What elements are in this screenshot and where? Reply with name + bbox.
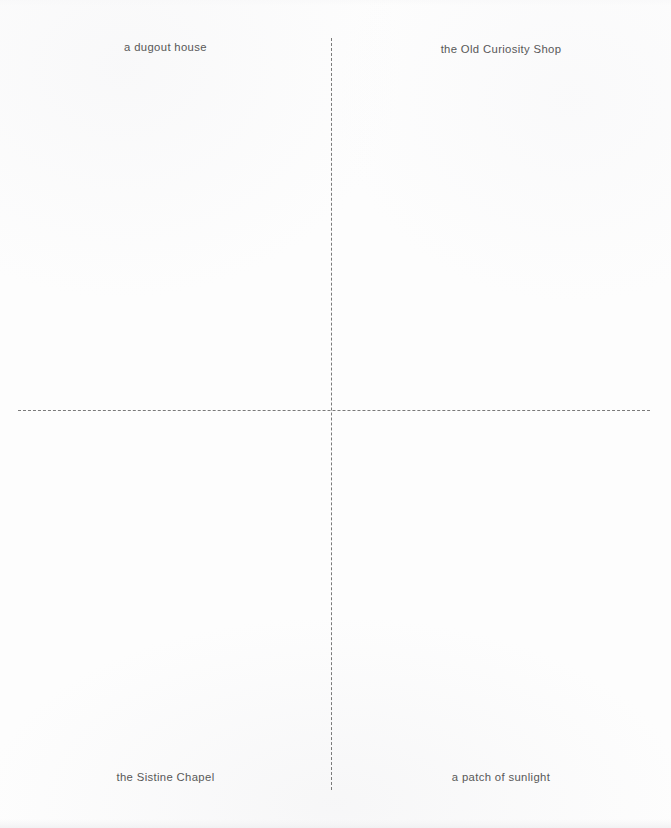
vertical-axis-dashed-line <box>331 38 332 790</box>
quadrant-label-bottom-left: the Sistine Chapel <box>0 772 331 783</box>
quadrant-label-top-left: a dugout house <box>0 42 331 53</box>
scan-edge-band-top <box>0 0 671 6</box>
quadrant-label-bottom-right: a patch of sunlight <box>331 772 671 783</box>
scanned-page: a dugout house the Old Curiosity Shop th… <box>0 0 671 828</box>
quadrant-label-top-right: the Old Curiosity Shop <box>331 44 671 55</box>
horizontal-axis-dashed-line <box>18 410 650 411</box>
scan-edge-band-bottom <box>0 819 671 828</box>
paper-texture-overlay <box>0 0 671 828</box>
